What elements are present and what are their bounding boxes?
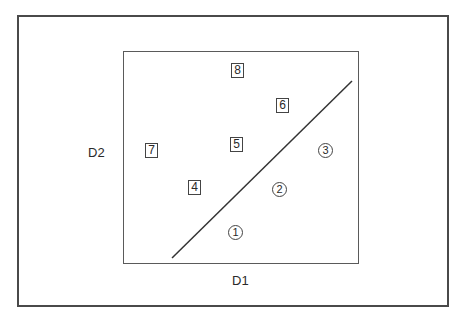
boxed-item-5: 5 (230, 137, 243, 152)
boxed-item-8: 8 (231, 63, 244, 78)
boxed-item-4: 4 (188, 180, 201, 195)
boxed-item-7: 7 (145, 143, 158, 158)
circled-item-2: 2 (272, 182, 287, 197)
circled-item-3: 3 (318, 143, 333, 158)
y-axis-label: D2 (88, 145, 105, 160)
x-axis-label: D1 (232, 273, 249, 288)
boxed-item-6: 6 (276, 98, 289, 113)
circled-item-1: 1 (228, 225, 243, 240)
